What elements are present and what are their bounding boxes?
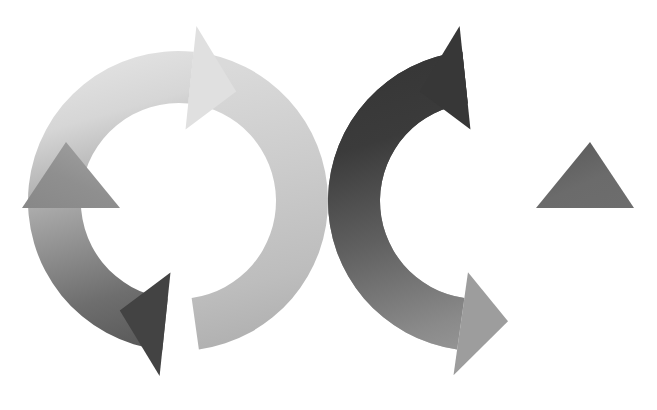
interlocking-cycle-arrows-graphic — [0, 0, 657, 410]
illustration-canvas — [0, 0, 657, 410]
